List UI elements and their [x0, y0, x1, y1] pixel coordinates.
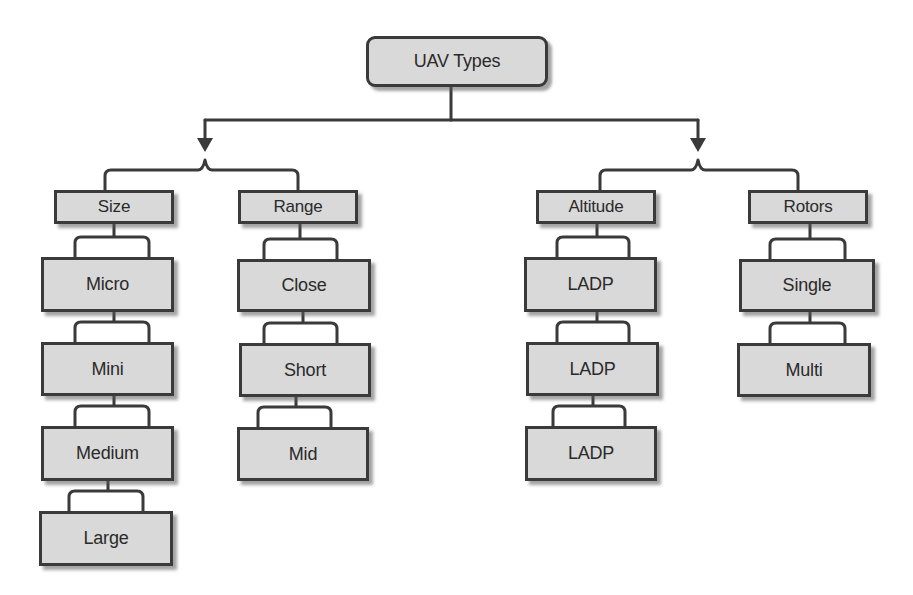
leaf-label: Short — [284, 360, 326, 381]
right-arrowhead-icon — [690, 138, 706, 152]
node-range-mid: Mid — [237, 427, 369, 481]
node-size-micro: Micro — [41, 257, 174, 312]
leaf-label: Mid — [289, 444, 317, 465]
node-category-size: Size — [54, 190, 174, 224]
node-range-short: Short — [239, 343, 371, 397]
medium-large-connector — [69, 481, 143, 511]
leaf-label: Micro — [86, 274, 129, 295]
single-multi-connector — [770, 312, 845, 343]
node-size-large: Large — [39, 511, 173, 566]
close-short-connector — [264, 312, 337, 343]
leaf-label: Single — [783, 275, 832, 296]
leaf-label: LADP — [568, 443, 614, 464]
ladp1-ladp2-connector — [557, 312, 629, 342]
category-size-label: Size — [98, 197, 130, 217]
right-brace-line — [600, 160, 798, 190]
leaf-label: LADP — [567, 274, 613, 295]
node-altitude-ladp-2: LADP — [526, 342, 659, 396]
uav-types-diagram: UAV Types Size Range Altitude Rotors Mic… — [0, 0, 913, 595]
node-size-mini: Mini — [41, 342, 174, 396]
micro-mini-connector — [75, 312, 149, 342]
short-mid-connector — [258, 397, 331, 427]
range-close-connector — [264, 224, 337, 259]
mini-medium-connector — [75, 396, 149, 426]
node-range-close: Close — [237, 259, 371, 312]
left-arrowhead-icon — [197, 138, 213, 152]
node-root-label: UAV Types — [414, 51, 501, 72]
node-category-altitude: Altitude — [536, 190, 656, 224]
node-root: UAV Types — [366, 36, 548, 87]
leaf-label: Medium — [76, 443, 139, 464]
node-rotors-multi: Multi — [737, 343, 871, 397]
node-altitude-ladp-3: LADP — [525, 426, 657, 481]
node-category-rotors: Rotors — [748, 190, 868, 224]
node-category-range: Range — [238, 190, 358, 224]
leaf-label: Close — [281, 275, 326, 296]
category-rotors-label: Rotors — [784, 197, 833, 217]
leaf-label: Mini — [91, 359, 123, 380]
leaf-label: Multi — [785, 360, 822, 381]
node-size-medium: Medium — [41, 426, 174, 481]
rotors-single-connector — [770, 224, 845, 259]
leaf-label: LADP — [569, 359, 615, 380]
altitude-ladp1-connector — [557, 224, 629, 257]
left-brace-line — [105, 160, 298, 190]
size-micro-connector — [75, 224, 149, 257]
category-altitude-label: Altitude — [568, 197, 623, 217]
node-altitude-ladp-1: LADP — [524, 257, 657, 312]
category-range-label: Range — [273, 197, 322, 217]
leaf-label: Large — [83, 528, 128, 549]
ladp2-ladp3-connector — [553, 396, 625, 426]
node-rotors-single: Single — [739, 259, 875, 312]
